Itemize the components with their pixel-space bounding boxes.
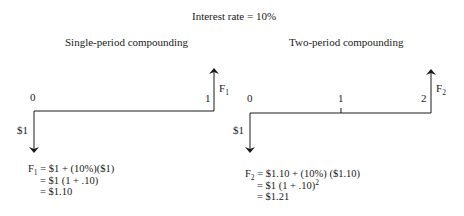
period-label-2: 2 (421, 92, 427, 104)
period-label-0: 0 (247, 92, 253, 104)
two-period-equation-line2: = $1 (1 + .10)2 (257, 180, 319, 192)
single-period-equation-line3: = $1.10 (40, 186, 72, 198)
inflow-label: F1 (219, 82, 229, 94)
period-label-0: 0 (30, 91, 36, 103)
outflow-label: $1 (17, 124, 28, 136)
two-period-title: Two-period compounding (289, 36, 403, 48)
outflow-label: $1 (233, 124, 244, 136)
interest-rate-title: Interest rate = 10% (192, 10, 276, 22)
single-period-equation-line1: F1 = $1 + (10%)($1) (28, 163, 114, 175)
two-period-timeline (250, 72, 431, 150)
single-period-title: Single-period compounding (65, 36, 188, 48)
single-period-timeline (34, 71, 214, 150)
single-period-equation-line2: = $1 (1 + .10) (40, 175, 98, 187)
inflow-label: F2 (436, 82, 446, 94)
two-period-equation-line3: = $1.21 (257, 191, 289, 203)
two-period-equation-line1: F2 = $1.10 + (10%) ($1.10) (245, 168, 360, 180)
period-label-1: 1 (338, 92, 344, 104)
period-label-1: 1 (205, 92, 211, 104)
